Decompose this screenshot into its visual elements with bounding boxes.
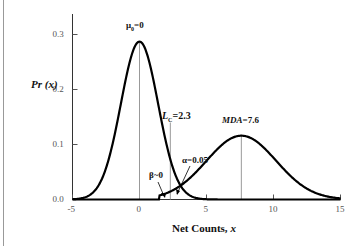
background-curve: [73, 42, 341, 200]
x-tick-label: 10: [269, 204, 278, 214]
x-tick-label: -5: [68, 204, 76, 214]
mda-value: =7.6: [243, 115, 259, 125]
y-tick-label: 0.3: [53, 29, 64, 39]
beta-annotation: β~0: [149, 170, 163, 180]
y-tick-label: 0.0: [53, 194, 64, 204]
curves: [73, 42, 341, 200]
x-axis-label: Net Counts, x: [172, 222, 236, 234]
x-axis-label-main: Net Counts,: [172, 222, 230, 234]
x-axis-label-var: x: [230, 222, 236, 234]
alpha-annotation: α=0.05: [182, 155, 208, 165]
mda-annotation: MDA=7.6: [222, 115, 259, 125]
mu-annotation: μ0=0: [126, 20, 144, 32]
y-axis-label-main: Pr: [31, 78, 42, 90]
axes: [73, 14, 341, 200]
alpha-arrowhead: [176, 189, 180, 195]
y-axis-label: Pr (x): [31, 78, 58, 90]
x-tick-label: 15: [336, 204, 345, 214]
lc-annotation: LC=2.3: [162, 110, 191, 123]
y-axis-label-arg: (x): [42, 78, 58, 90]
mu-value: =0: [134, 20, 144, 30]
x-tick-label: 0: [137, 204, 142, 214]
x-tick-label: 5: [204, 204, 209, 214]
mda-symbol: MDA: [222, 115, 243, 125]
lc-value: =2.3: [172, 110, 190, 121]
y-tick-label: 0.1: [53, 139, 64, 149]
